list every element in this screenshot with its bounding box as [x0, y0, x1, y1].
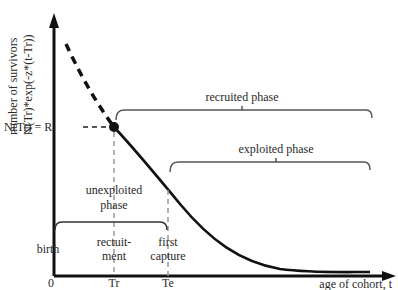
birth-label: birth — [37, 242, 60, 256]
first-capture-label-line1: first — [158, 235, 178, 249]
pre-recruitment-curve — [66, 44, 114, 127]
recruited-phase-label: recruited phase — [206, 90, 279, 104]
recruitment-level-label: N(Tr) = R — [4, 120, 52, 134]
first-capture-label-line2: capture — [150, 249, 185, 263]
x-tick-tr: Tr — [109, 276, 120, 290]
recruitment-label-line2: ment — [102, 249, 127, 263]
survivorship-diagram: number of survivors N(Tr)*exp(-z*(t-Tr))… — [0, 0, 398, 290]
exploited-phase-brace — [170, 158, 370, 172]
exploited-phase-label: exploited phase — [239, 142, 314, 156]
recruited-phase-brace — [116, 106, 372, 120]
unexploited-phase-label-line2: phase — [100, 198, 127, 212]
x-tick-0: 0 — [48, 276, 54, 290]
unexploited-phase-label-line1: unexploited — [86, 183, 143, 197]
recruitment-point — [109, 122, 119, 132]
y-axis-arrow-icon — [49, 13, 59, 28]
x-axis-label: age of cohort, t — [319, 277, 392, 290]
recruitment-label-line1: rectuit- — [97, 235, 132, 249]
unexploited-phase-brace — [55, 222, 167, 230]
y-axis — [49, 13, 59, 276]
x-tick-te: Te — [162, 276, 174, 290]
